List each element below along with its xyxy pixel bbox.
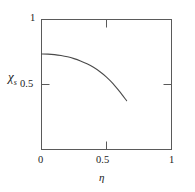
x-tick-label-0.5: 0.5 <box>96 155 109 166</box>
x-tick-label-0: 0 <box>38 155 43 166</box>
figure-container: 1 0.5 0 0.5 1 χs η <box>0 0 195 192</box>
plot-frame <box>42 20 172 150</box>
data-curve <box>42 54 127 101</box>
x-tick-label-1: 1 <box>169 155 174 166</box>
y-tick-label-0.5: 0.5 <box>20 79 33 90</box>
x-axis-title: η <box>99 172 104 183</box>
y-tick-label-1: 1 <box>30 13 35 24</box>
y-axis-title: χs <box>8 70 17 87</box>
y-axis-title-subscript: s <box>14 78 17 87</box>
